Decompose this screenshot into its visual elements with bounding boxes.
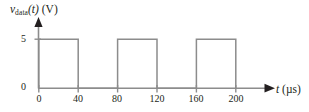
y-axis-label-arg: (t) [28, 3, 39, 15]
x-tick-label-120: 120 [143, 94, 171, 104]
x-axis-label-var: t [276, 83, 279, 95]
y-axis-arrowhead [34, 17, 42, 27]
waveform-trace [39, 39, 236, 88]
y-tick-label-0: 0 [14, 82, 26, 92]
y-tick-label-5: 5 [14, 34, 26, 44]
waveform-figure: vdata(t) (V) 5 0 0 40 80 120 160 200 t (… [0, 0, 309, 112]
x-tick-label-80: 80 [103, 94, 131, 104]
x-tick-label-200: 200 [222, 94, 250, 104]
x-axis-label-unit: (µs) [282, 83, 301, 95]
x-tick-label-0: 0 [25, 94, 53, 104]
x-axis-arrowhead [265, 84, 276, 93]
y-axis-label: vdata(t) (V) [10, 4, 58, 16]
x-axis-label: t (µs) [276, 84, 301, 96]
x-tick-label-160: 160 [182, 94, 210, 104]
y-axis-label-subscript: data [15, 8, 28, 17]
x-tick-label-40: 40 [64, 94, 92, 104]
y-axis-label-unit: (V) [42, 3, 58, 15]
